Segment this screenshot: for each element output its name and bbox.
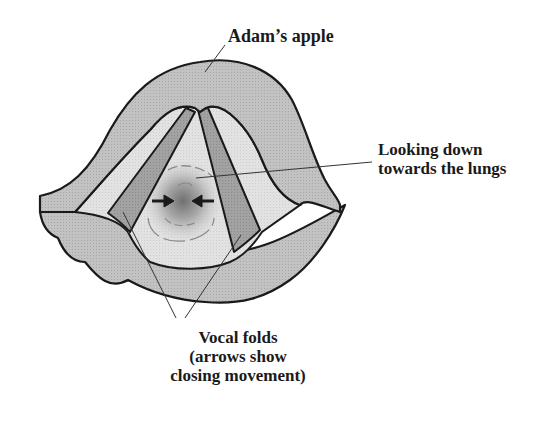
- label-vocal-folds-line3: closing movement): [140, 366, 336, 385]
- label-vocal-folds-line2: (arrows show: [140, 347, 336, 366]
- label-looking-down: Looking down towards the lungs: [378, 140, 506, 178]
- label-vocal-folds-line1: Vocal folds: [140, 328, 336, 347]
- label-looking-down-line1: Looking down: [378, 140, 506, 159]
- label-vocal-folds: Vocal folds (arrows show closing movemen…: [140, 328, 336, 385]
- label-adams-apple: Adam’s apple: [228, 27, 334, 46]
- larynx-diagram: Adam’s apple Looking down towards the lu…: [0, 0, 549, 432]
- label-looking-down-line2: towards the lungs: [378, 159, 506, 178]
